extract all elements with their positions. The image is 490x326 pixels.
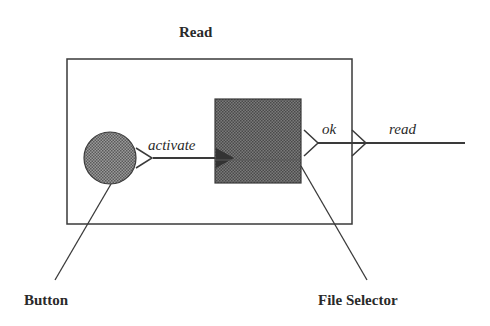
button-callout-label: Button [24, 292, 69, 308]
button-node [84, 132, 136, 184]
diagram-canvas: Read activate ok read Button File Select… [0, 0, 490, 326]
file-selector-output-port-icon [304, 130, 318, 156]
file-selector-callout-label: File Selector [318, 292, 398, 308]
ok-label: ok [322, 121, 337, 137]
file-selector-leader-line [301, 166, 367, 280]
read-label: read [389, 121, 416, 137]
file-selector-node [215, 99, 301, 183]
activate-label: activate [148, 137, 196, 153]
diagram-title: Read [179, 24, 213, 40]
button-leader-line [55, 184, 111, 280]
